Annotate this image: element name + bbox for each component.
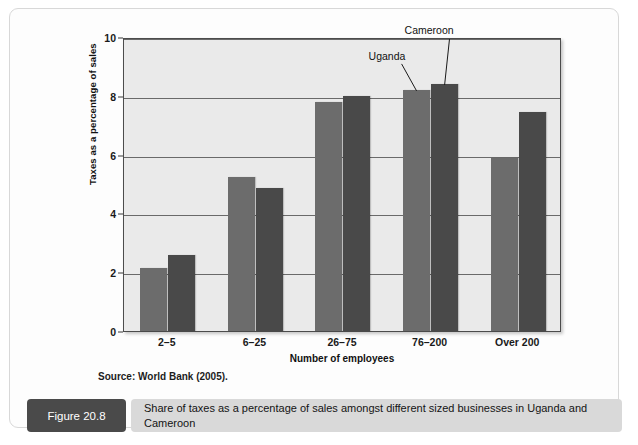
- bar-group: [474, 39, 562, 331]
- source-note: Source: World Bank (2005).: [98, 371, 228, 382]
- caption-bar: Figure 20.8 Share of taxes as a percenta…: [27, 399, 622, 432]
- figure-number-badge: Figure 20.8: [27, 399, 126, 432]
- x-axis-title: Number of employees: [123, 353, 561, 364]
- bar-uganda-Over-200: [491, 158, 518, 331]
- y-tick-label-2: 2: [110, 267, 116, 279]
- x-tick-label: 26–75: [327, 336, 356, 348]
- bar-uganda-26–75: [315, 102, 342, 331]
- x-tick-label: 6–25: [243, 336, 266, 348]
- bar-group: [299, 39, 387, 331]
- bar-uganda-76–200: [403, 90, 430, 331]
- x-tick-label: 76–200: [412, 336, 447, 348]
- y-tick-label-0: 0: [110, 326, 116, 338]
- bar-cameroon-76–200: [431, 84, 458, 331]
- bar-group: [387, 39, 475, 331]
- chart-plot-area: UgandaCameroon: [123, 38, 561, 332]
- bar-cameroon-26–75: [343, 96, 370, 331]
- annotation-label-uganda: Uganda: [369, 50, 406, 62]
- bar-cameroon-6–25: [256, 188, 283, 331]
- figure-frame: Taxes as a percentage of sales 0246810 U…: [9, 8, 619, 428]
- bar-group: [124, 39, 212, 331]
- y-axis: 0246810: [94, 38, 123, 332]
- x-tick-label: Over 200: [495, 336, 539, 348]
- x-tick-label: 2–5: [158, 336, 176, 348]
- y-tick-label-6: 6: [110, 150, 116, 162]
- bar-group: [212, 39, 300, 331]
- x-axis: 2–56–2526–7576–200Over 200: [123, 336, 561, 352]
- bar-uganda-6–25: [228, 177, 255, 331]
- y-tick-label-10: 10: [104, 32, 116, 44]
- bar-uganda-2–5: [140, 268, 167, 331]
- bar-cameroon-2–5: [168, 255, 195, 331]
- bar-cameroon-Over-200: [519, 112, 546, 331]
- annotation-label-cameroon: Cameroon: [405, 24, 454, 36]
- plot-inner: [124, 39, 560, 331]
- y-tick-label-8: 8: [110, 91, 116, 103]
- figure-caption-text: Share of taxes as a percentage of sales …: [131, 399, 622, 432]
- y-tick-label-4: 4: [110, 208, 116, 220]
